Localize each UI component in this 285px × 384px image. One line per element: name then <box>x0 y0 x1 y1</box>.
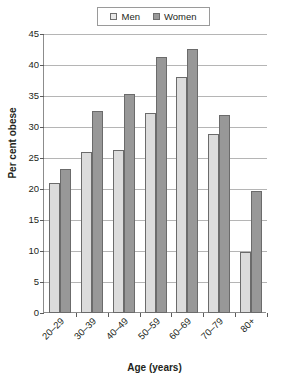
bar-women-30_39 <box>92 111 103 313</box>
legend-label-men: Men <box>121 12 139 22</box>
y-axis-tick-labels: 051015202530354045 <box>0 34 39 313</box>
bar-men-40_49 <box>113 150 124 313</box>
y-axis-title: Per cent obese <box>8 78 18 208</box>
bars-layer <box>44 34 267 313</box>
bar-men-60_69 <box>176 77 187 313</box>
bar-women-70_79 <box>219 115 230 313</box>
bar-men-70_79 <box>208 134 219 313</box>
chart-legend: Men Women <box>97 7 210 26</box>
legend-label-women: Women <box>164 12 197 22</box>
bar-men-80+ <box>240 252 251 313</box>
y-axis-tick-label: 0 <box>3 308 39 318</box>
y-axis-tick-label: 15 <box>3 215 39 225</box>
y-axis-tick-label: 5 <box>3 277 39 287</box>
bar-women-50_59 <box>156 57 167 313</box>
bar-men-30_39 <box>81 152 92 313</box>
bar-women-80+ <box>251 191 262 313</box>
x-axis-tick <box>267 313 268 317</box>
legend-swatch-women-icon <box>153 13 160 20</box>
bar-women-60_69 <box>187 49 198 313</box>
bar-group <box>240 34 262 313</box>
y-axis-tick-label: 10 <box>3 246 39 256</box>
bar-group <box>176 34 198 313</box>
bar-group <box>81 34 103 313</box>
y-axis-tick-label: 40 <box>3 60 39 70</box>
legend-item-men: Men <box>110 12 139 22</box>
y-axis-tick-label: 45 <box>3 29 39 39</box>
bar-men-50_59 <box>145 113 156 313</box>
bar-men-20_29 <box>49 183 60 313</box>
bar-group <box>49 34 71 313</box>
plot-area <box>43 34 266 313</box>
legend-swatch-men-icon <box>110 13 117 20</box>
legend-item-women: Women <box>153 12 197 22</box>
bar-group <box>113 34 135 313</box>
bar-group <box>208 34 230 313</box>
bar-women-40_49 <box>124 94 135 313</box>
x-axis-tick-labels: 20–2930–3940–4950–5960–6970–7980+ <box>43 313 266 361</box>
bar-women-20_29 <box>60 169 71 313</box>
x-axis-title: Age (years) <box>43 363 266 373</box>
bar-group <box>145 34 167 313</box>
bar-chart-figure: Men Women 051015202530354045 20–2930–394… <box>0 0 285 384</box>
